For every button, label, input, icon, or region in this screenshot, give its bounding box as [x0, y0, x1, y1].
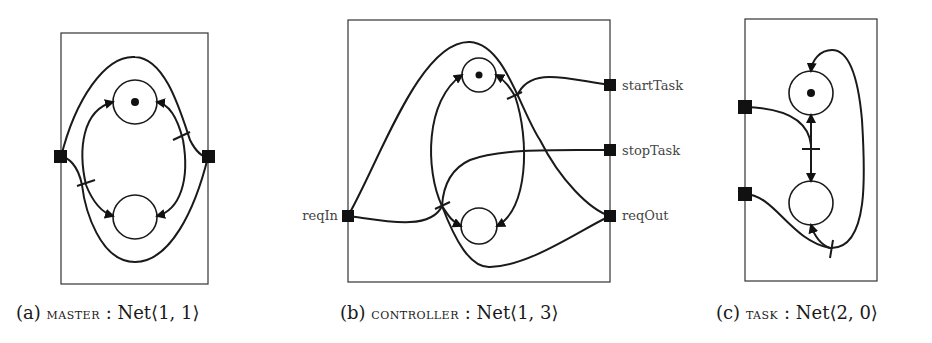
port-in-1 — [738, 100, 752, 114]
place-bottom — [113, 195, 157, 239]
panel-controller: reqIn startTask stopTask reqOut — [302, 20, 683, 282]
port-label-reqout: reqOut — [622, 208, 669, 223]
port-starttask — [604, 79, 616, 91]
panel-master — [54, 33, 215, 284]
place-bottom — [461, 208, 497, 244]
caption-separator: : — [465, 302, 471, 323]
caption-net-type: Net⟨1, 1⟩ — [117, 302, 199, 323]
caption-separator: : — [784, 302, 790, 323]
port-label-reqin: reqIn — [302, 208, 338, 223]
caption-task: (c) task : Net⟨2, 0⟩ — [716, 302, 878, 323]
arc-to-bottom-place-left — [442, 206, 461, 226]
port-label-starttask: startTask — [622, 78, 683, 93]
petri-net-figure: reqIn startTask stopTask reqOut — [0, 0, 932, 343]
port-in-2 — [738, 187, 752, 201]
caption-tag: (c) — [716, 302, 740, 323]
arc-left-to-bottom-place — [86, 185, 113, 216]
port-left — [54, 150, 67, 163]
token — [476, 72, 483, 79]
port-reqout — [604, 210, 616, 222]
port-stoptask — [604, 144, 616, 156]
place-bottom — [789, 181, 833, 225]
token — [131, 98, 139, 106]
caption-tag: (a) — [16, 302, 41, 323]
caption-net-type: Net⟨2, 0⟩ — [796, 302, 878, 323]
arc-stoptask-to-transition — [442, 150, 610, 206]
caption-separator: : — [106, 302, 112, 323]
caption-master: (a) master : Net⟨1, 1⟩ — [16, 302, 200, 323]
port-right — [202, 150, 215, 163]
arc-to-bottom-place-right — [497, 96, 524, 226]
token — [807, 89, 815, 97]
port-label-stoptask: stopTask — [622, 143, 680, 158]
caption-net-name: controller — [371, 304, 459, 323]
caption-controller: (b) controller : Net⟨1, 3⟩ — [340, 302, 559, 323]
arc-left-to-top-place — [82, 102, 113, 185]
arc-starttask-to-transition — [517, 77, 610, 96]
arc-right-to-bottom-place — [157, 140, 185, 216]
panel-task — [738, 19, 877, 281]
port-reqin — [342, 210, 354, 222]
caption-net-type: Net⟨1, 3⟩ — [476, 302, 558, 323]
caption-net-name: master — [47, 304, 100, 323]
caption-tag: (b) — [340, 302, 366, 323]
caption-net-name: task — [746, 304, 778, 323]
arc-reqin-to-mid-transition — [348, 206, 442, 222]
